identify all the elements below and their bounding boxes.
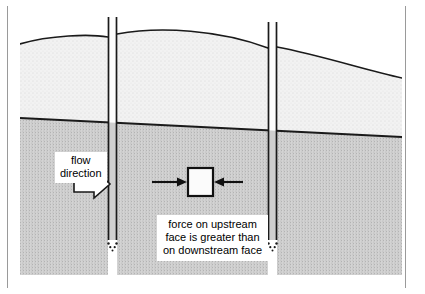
frame-rule-left: [7, 6, 8, 288]
force-comparison-caption: force on upstream face is greater than o…: [157, 215, 268, 261]
left-standpipe-screen-perforations: [107, 242, 117, 251]
right-standpipe: [267, 22, 277, 251]
seepage-force-figure: flow direction force on upstream face is…: [0, 0, 425, 294]
diagram-scene: flow direction force on upstream face is…: [20, 12, 402, 275]
soil-element-square: [188, 168, 213, 196]
right-standpipe-screen-perforations: [267, 242, 277, 251]
left-standpipe: [107, 17, 117, 251]
frame-rule-right: [405, 6, 406, 288]
flow-direction-label: flow direction: [55, 152, 107, 183]
